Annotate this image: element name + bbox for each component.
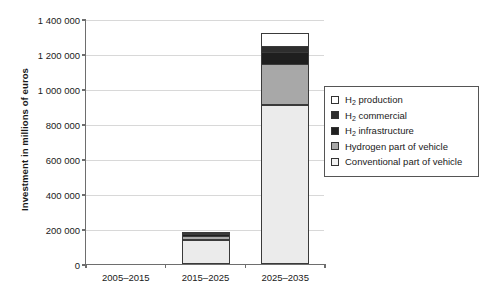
- y-axis-title: Investment in millions of euros: [19, 20, 30, 260]
- chart-container: Investment in millions of euros 0200 000…: [0, 0, 482, 288]
- legend-label-h2-infrastructure: H2 infrastructure: [345, 125, 414, 136]
- x-axis-tick: [324, 264, 325, 268]
- bar-segment: [261, 33, 309, 47]
- legend-label-conventional-part: Conventional part of vehicle: [345, 156, 462, 167]
- legend-swatch-hydrogen-part: [331, 142, 339, 150]
- y-axis-tick: [82, 19, 86, 20]
- y-axis-tick: [82, 194, 86, 195]
- y-axis-tick-label: 200 000: [46, 225, 80, 236]
- x-axis-tick-origin: [85, 264, 86, 268]
- legend-swatch-h2-production: [331, 96, 339, 104]
- y-axis-tick: [82, 159, 86, 160]
- legend-item-conventional-part: Conventional part of vehicle: [331, 154, 472, 170]
- bar-2015-2025: [182, 230, 230, 264]
- legend-item-hydrogen-part: Hydrogen part of vehicle: [331, 139, 472, 155]
- legend-swatch-h2-commercial: [331, 111, 339, 119]
- y-axis-tick: [82, 229, 86, 230]
- y-axis-tick-label: 800 000: [46, 120, 80, 131]
- plot-area: 0200 000400 000600 000800 0001 000 0001 …: [85, 20, 324, 265]
- x-axis-tick-label: 2015–2025: [182, 272, 230, 283]
- y-axis-tick-label: 1 400 000: [38, 15, 80, 26]
- y-axis-tick: [82, 54, 86, 55]
- x-axis-tick-label: 2025–2035: [261, 272, 309, 283]
- y-axis-tick-label: 1 200 000: [38, 50, 80, 61]
- legend-label-hydrogen-part: Hydrogen part of vehicle: [345, 141, 448, 152]
- bar-segment: [182, 240, 230, 264]
- x-axis-tick: [165, 264, 166, 268]
- legend-swatch-h2-infrastructure: [331, 127, 339, 135]
- chart-legend: H2 production H2 commercial H2 infrastru…: [324, 86, 479, 177]
- y-axis-tick-label: 400 000: [46, 190, 80, 201]
- y-axis-tick-label: 1 000 000: [38, 85, 80, 96]
- legend-item-h2-production: H2 production: [331, 92, 472, 108]
- y-axis-tick-label: 0: [75, 260, 80, 271]
- legend-item-h2-commercial: H2 commercial: [331, 108, 472, 124]
- x-axis-tick: [245, 264, 246, 268]
- y-axis-tick: [82, 124, 86, 125]
- legend-label-h2-commercial: H2 commercial: [345, 110, 407, 121]
- legend-item-h2-infrastructure: H2 infrastructure: [331, 123, 472, 139]
- legend-label-h2-production: H2 production: [345, 94, 403, 105]
- legend-swatch-conventional-part: [331, 158, 339, 166]
- y-axis-tick-label: 600 000: [46, 155, 80, 166]
- x-axis-tick-label: 2005–2015: [102, 272, 150, 283]
- y-axis-tick: [82, 89, 86, 90]
- gridline: [86, 20, 324, 21]
- bar-2025-2035: [261, 30, 309, 265]
- bar-segment: [261, 105, 309, 264]
- bar-segment: [261, 64, 309, 105]
